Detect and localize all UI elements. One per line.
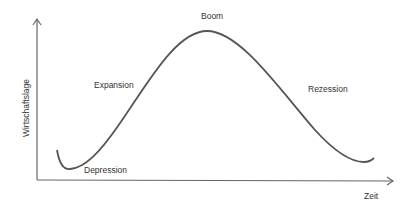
business-cycle-diagram (0, 0, 415, 210)
y-axis (33, 19, 41, 180)
x-axis-label: Zeit (364, 191, 378, 201)
y-axis-label: Wirtschaftslage (21, 79, 31, 137)
x-axis (37, 177, 393, 185)
business-cycle-curve (57, 31, 374, 169)
phase-label-boom: Boom (201, 11, 223, 21)
phase-label-expansion: Expansion (94, 80, 134, 90)
phase-label-rezession: Rezession (308, 84, 348, 94)
phase-label-depression: Depression (84, 165, 127, 175)
